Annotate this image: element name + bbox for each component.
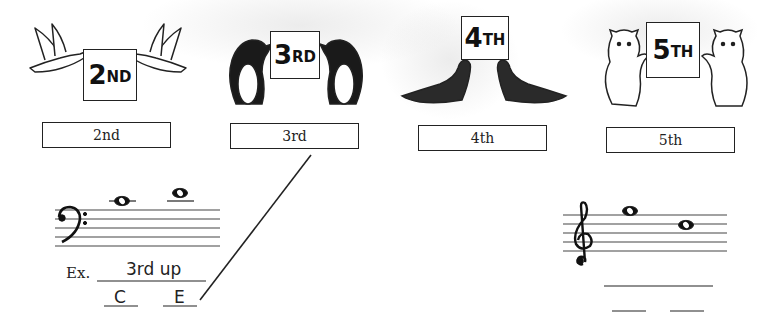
whole-note-2 xyxy=(679,220,694,229)
whole-note-1 xyxy=(623,206,638,215)
